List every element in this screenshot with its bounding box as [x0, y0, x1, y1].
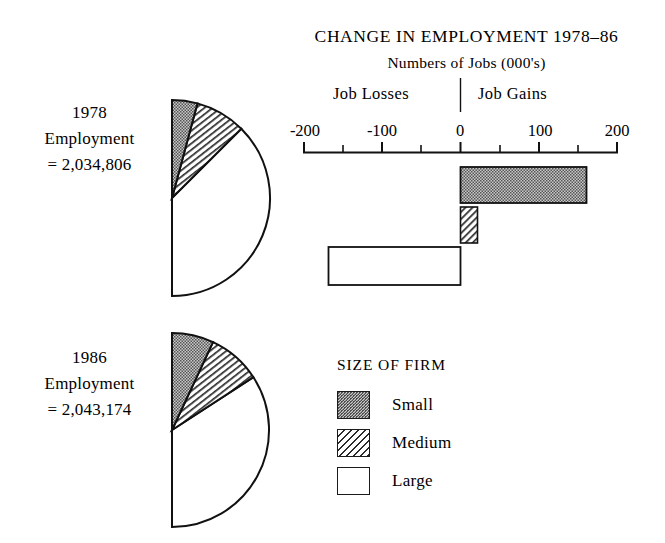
pie-1986 — [172, 333, 269, 527]
bar-large — [329, 247, 461, 285]
axis-tick-label-1: -100 — [367, 121, 397, 140]
axis-tick-label-3: 100 — [528, 121, 553, 140]
chart-vector-layer: -200 -100 0 100 200 — [0, 0, 665, 543]
axis-tick-label-0: -200 — [290, 121, 320, 140]
bar-small — [461, 167, 587, 203]
axis-tick-labels: -200 -100 0 100 200 — [290, 121, 630, 140]
axis-tick-label-4: 200 — [605, 121, 630, 140]
axis-tick-label-2: 0 — [456, 121, 464, 140]
bar-medium — [461, 207, 478, 243]
pie-1978 — [172, 100, 270, 296]
chart-canvas: CHANGE IN EMPLOYMENT 1978–86 Numbers of … — [0, 0, 665, 543]
axis-major-ticks — [304, 142, 617, 152]
